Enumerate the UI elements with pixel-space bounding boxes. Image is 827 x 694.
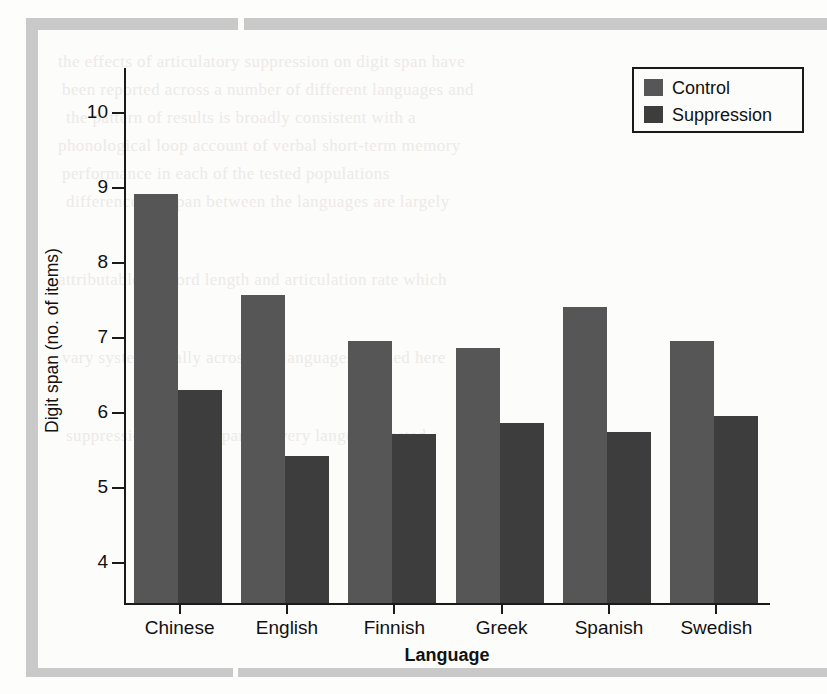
y-tick-label: 7 — [68, 327, 108, 346]
bar-spanish-suppression — [607, 432, 651, 603]
x-axis-line — [124, 603, 770, 605]
x-tick-label-chinese: Chinese — [145, 617, 215, 639]
y-tick-label: 10 — [68, 102, 108, 121]
legend-swatch-control — [644, 79, 663, 96]
y-tick-label: 6 — [68, 402, 108, 421]
scanned-page: the effects of articulatory suppression … — [0, 0, 827, 694]
legend-entry-control: Control — [644, 74, 802, 101]
legend-label-control: Control — [672, 79, 730, 97]
y-tick-label: 9 — [68, 177, 108, 196]
x-tick-mark — [608, 603, 610, 614]
chart-legend: Control Suppression — [632, 67, 804, 133]
x-tick-mark — [286, 603, 288, 614]
x-axis-title: Language — [124, 645, 770, 666]
legend-entry-suppression: Suppression — [644, 101, 802, 128]
bar-finnish-control — [348, 341, 392, 603]
y-axis-title: Digit span (no. of items) — [42, 181, 63, 501]
x-tick-mark — [501, 603, 503, 614]
bar-finnish-suppression — [392, 434, 436, 603]
x-tick-label-finnish: Finnish — [364, 617, 425, 639]
x-tick-mark — [393, 603, 395, 614]
x-tick-label-swedish: Swedish — [680, 617, 752, 639]
y-axis-line — [124, 68, 126, 605]
y-tick-label: 4 — [68, 552, 108, 571]
bar-english-suppression — [285, 456, 329, 603]
y-tick-label: 8 — [68, 252, 108, 271]
bar-chart: 45678910 ChineseEnglishFinnishGreekSpani… — [0, 0, 827, 694]
bar-swedish-suppression — [714, 416, 758, 603]
x-tick-mark — [715, 603, 717, 614]
bar-greek-control — [456, 348, 500, 603]
x-tick-label-spanish: Spanish — [575, 617, 644, 639]
bar-greek-suppression — [500, 423, 544, 603]
bar-english-control — [241, 295, 285, 603]
legend-swatch-suppression — [644, 106, 663, 123]
legend-label-suppression: Suppression — [672, 106, 772, 124]
bar-chinese-suppression — [178, 390, 222, 603]
bar-chinese-control — [134, 194, 178, 603]
bar-spanish-control — [563, 307, 607, 603]
x-tick-label-greek: Greek — [476, 617, 528, 639]
y-tick-label: 5 — [68, 477, 108, 496]
x-tick-mark — [179, 603, 181, 614]
x-tick-label-english: English — [256, 617, 318, 639]
bar-swedish-control — [670, 341, 714, 603]
